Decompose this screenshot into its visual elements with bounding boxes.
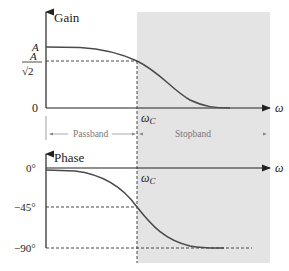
gain-tick-zero: 0 xyxy=(32,101,38,115)
gain-axis-label: Gain xyxy=(54,10,80,25)
gain-tick-sqrt2: √2 xyxy=(22,65,34,77)
phase-tick-90: −90° xyxy=(14,242,36,254)
stopband-label: Stopband xyxy=(175,129,211,139)
phase-axis-label: Phase xyxy=(54,150,85,165)
gain-tick-A-num: A xyxy=(29,50,37,62)
gain-x-label: ω xyxy=(275,101,283,115)
phase-x-label: ω xyxy=(275,161,283,175)
phase-tick-45: −45° xyxy=(14,201,36,213)
phase-tick-0: 0° xyxy=(26,162,36,174)
passband-label: Passband xyxy=(73,129,109,139)
